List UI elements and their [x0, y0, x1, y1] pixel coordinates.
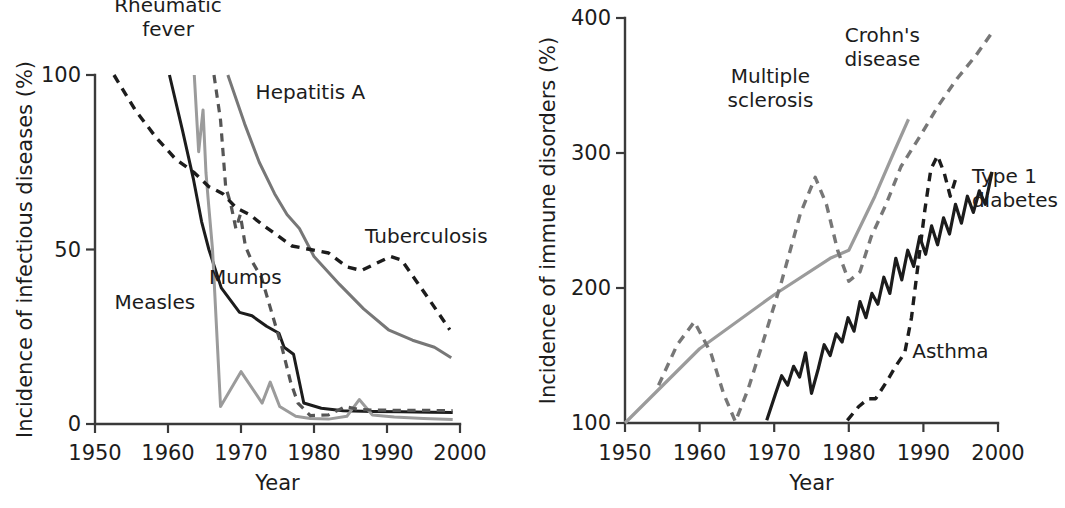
series-path	[847, 156, 956, 421]
chart-panel-immune-disorders: 100200300400195019601970198019902000Year…	[533, 0, 1065, 508]
x-tick-label: 1960	[673, 441, 726, 465]
series-path	[767, 172, 992, 420]
series-label-line: Hepatitis A	[256, 80, 366, 104]
x-tick-label: 2000	[971, 441, 1024, 465]
series-label-crohn-s-disease: Crohn'sdisease	[844, 23, 920, 71]
x-tick-label: 1960	[141, 441, 194, 465]
y-tick-label: 100	[571, 411, 611, 435]
series-label-line: disease	[844, 47, 920, 71]
x-tick-label: 1950	[68, 441, 121, 465]
series-type-1-diabetes: Type 1diabetes	[767, 164, 1058, 421]
series-path	[228, 75, 451, 358]
x-axis-title: Year	[254, 471, 300, 495]
series-label-line: Rheumatic	[114, 0, 222, 17]
series-label-line: Crohn's	[845, 23, 920, 47]
y-tick-label: 0	[68, 412, 81, 436]
x-tick-label: 2000	[433, 441, 486, 465]
series-label-multiple-sclerosis: Multiplesclerosis	[728, 64, 814, 112]
series-label-rheumatic-fever: Rheumaticfever	[114, 0, 222, 41]
series-label-line: Type 1	[971, 164, 1037, 188]
x-tick-label: 1970	[747, 441, 800, 465]
x-tick-label: 1990	[897, 441, 950, 465]
series-label-line: Multiple	[731, 64, 810, 88]
chart-svg-infectious-diseases: 050100195019601970198019902000YearIncide…	[0, 0, 533, 508]
series-hepatitis-a: Hepatitis A	[228, 75, 451, 358]
x-axis-title: Year	[788, 471, 834, 495]
y-tick-label: 200	[571, 276, 611, 300]
series-label-line: fever	[142, 17, 194, 41]
y-tick-label: 400	[571, 6, 611, 30]
x-tick-label: 1980	[822, 441, 875, 465]
y-axis-title: Incidence of infectious diseases (%)	[13, 61, 37, 438]
series-label-asthma: Asthma	[912, 339, 988, 363]
series-label-tuberculosis: Tuberculosis	[364, 224, 488, 248]
series-label-mumps: Mumps	[209, 265, 282, 289]
series-label-measles: Measles	[115, 290, 196, 314]
chart-panel-infectious-diseases: 050100195019601970198019902000YearIncide…	[0, 0, 533, 508]
chart-svg-immune-disorders: 100200300400195019601970198019902000Year…	[533, 0, 1065, 508]
y-axis-title: Incidence of immune disorders (%)	[536, 37, 560, 405]
series-label-line: Tuberculosis	[364, 224, 488, 248]
y-tick-label: 50	[54, 238, 81, 262]
series-label-line: Asthma	[912, 339, 988, 363]
x-tick-label: 1950	[598, 441, 651, 465]
series-label-line: diabetes	[972, 188, 1058, 212]
series-label-line: sclerosis	[728, 88, 814, 112]
y-tick-label: 300	[571, 141, 611, 165]
x-tick-label: 1980	[287, 441, 340, 465]
x-tick-label: 1990	[360, 441, 413, 465]
figure-root: 050100195019601970198019902000YearIncide…	[0, 0, 1065, 508]
series-label-hepatitis-a: Hepatitis A	[256, 80, 366, 104]
series-label-line: Measles	[115, 290, 196, 314]
series-label-line: Mumps	[209, 265, 282, 289]
y-tick-label: 100	[41, 63, 81, 87]
x-tick-label: 1970	[214, 441, 267, 465]
series-label-type-1-diabetes: Type 1diabetes	[971, 164, 1058, 212]
series-path	[625, 119, 908, 423]
